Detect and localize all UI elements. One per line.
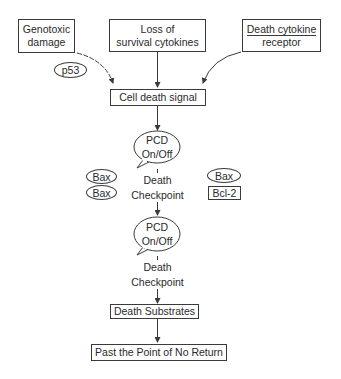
pcd1-line1: PCD (134, 133, 180, 147)
receptor-line1: Death cytokine (247, 23, 316, 36)
bcl2-box: Bcl-2 (208, 186, 241, 200)
cell-death-signal-box: Cell death signal (110, 89, 206, 106)
pcd2-line2: On/Off (134, 234, 180, 248)
bax-oval-right: Bax (207, 168, 241, 183)
death-checkpoint-2: Death Checkpoint (117, 260, 198, 290)
death-substrates-box: Death Substrates (110, 304, 199, 319)
bax-label: Bax (92, 187, 110, 199)
bax-label: Bax (215, 170, 233, 182)
receptor-line2: receptor (262, 36, 301, 49)
loss-line2: survival cytokines (116, 36, 198, 49)
genotoxic-damage-box: Genotoxic damage (18, 19, 75, 53)
death-checkpoint-1: Death Checkpoint (117, 173, 198, 203)
point-of-no-return-label: Past the Point of No Return (95, 346, 223, 359)
death-substrates-label: Death Substrates (114, 305, 195, 318)
pcd2-label: PCD On/Off (134, 220, 180, 248)
arrow-receptor-to-signal (203, 52, 241, 83)
genotoxic-line1: Genotoxic (23, 23, 70, 36)
checkpoint1-line1: Death (117, 173, 198, 188)
point-of-no-return-box: Past the Point of No Return (91, 344, 227, 361)
loss-of-survival-cytokines-box: Loss of survival cytokines (109, 19, 206, 52)
bax-oval-left-2: Bax (86, 185, 117, 200)
checkpoint2-line2: Checkpoint (117, 275, 198, 290)
p53-label: p53 (62, 64, 80, 76)
checkpoint1-line2: Checkpoint (117, 188, 198, 203)
genotoxic-line2: damage (28, 36, 66, 49)
pcd2-line1: PCD (134, 220, 180, 234)
p53-oval: p53 (54, 62, 87, 78)
pcd1-line2: On/Off (134, 147, 180, 161)
bcl2-label: Bcl-2 (213, 187, 237, 200)
cell-death-signal-label: Cell death signal (119, 91, 197, 104)
checkpoint2-line1: Death (117, 260, 198, 275)
pcd1-label: PCD On/Off (134, 133, 180, 161)
loss-line1: Loss of (141, 23, 175, 36)
bax-label: Bax (92, 171, 110, 183)
bax-oval-left-1: Bax (86, 169, 117, 184)
death-cytokine-receptor-box: Death cytokine receptor (242, 19, 321, 52)
